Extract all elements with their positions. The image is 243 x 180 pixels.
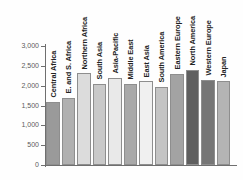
bar-slot: Asia-Pacific [108, 46, 122, 165]
bar[interactable] [155, 87, 169, 165]
bar-category-label: North America [189, 16, 196, 65]
bar-category-label: Northern Africa [81, 17, 88, 69]
bar[interactable] [46, 102, 60, 165]
y-axis-tick-label: 0 [0, 161, 39, 168]
bar[interactable] [77, 73, 91, 165]
bar-category-label: E. and S. Africa [65, 41, 72, 93]
bar-slot: Japan [217, 46, 231, 165]
bar[interactable] [186, 70, 200, 165]
bar-chart: 05001,0001,5002,0002,5003,000 Central Af… [0, 0, 243, 180]
bar-slot: Middle East [124, 46, 138, 165]
y-axis-tick-label: 500 [0, 141, 39, 148]
y-axis-tick-label: 1,000 [0, 121, 39, 128]
bar[interactable] [217, 81, 231, 165]
bar-slot: East Asia [139, 46, 153, 165]
bar-category-label: Eastern Europe [174, 17, 181, 70]
bar-slot: Central Africa [46, 46, 60, 165]
bar[interactable] [93, 84, 107, 165]
bar-slot: South America [155, 46, 169, 165]
bar[interactable] [170, 74, 184, 165]
y-axis-tick [41, 165, 46, 166]
bar-slot: Western Europe [201, 46, 215, 165]
bar-group: Central AfricaE. and S. AfricaNorthern A… [46, 46, 236, 165]
y-axis-tick-label: 1,500 [0, 102, 39, 109]
bar-category-label: Middle East [127, 40, 134, 80]
bar-category-label: Japan [220, 56, 227, 77]
bar[interactable] [124, 84, 138, 165]
bar-slot: E. and S. Africa [62, 46, 76, 165]
bar[interactable] [201, 80, 215, 165]
bar-category-label: Western Europe [205, 21, 212, 76]
y-axis-tick-label: 2,000 [0, 82, 39, 89]
bar-category-label: Central Africa [50, 51, 57, 98]
y-axis-tick-label: 2,500 [0, 62, 39, 69]
bar[interactable] [139, 81, 153, 165]
y-axis-tick-label: 3,000 [0, 42, 39, 49]
bar-slot: Northern Africa [77, 46, 91, 165]
bar-category-label: South America [158, 32, 165, 83]
x-axis-line [45, 165, 237, 166]
bar[interactable] [108, 78, 122, 165]
bar-slot: Eastern Europe [170, 46, 184, 165]
bar[interactable] [62, 98, 76, 165]
bar-slot: South Asia [93, 46, 107, 165]
bar-slot: North America [186, 46, 200, 165]
bar-category-label: Asia-Pacific [112, 33, 119, 74]
bar-category-label: South Asia [96, 42, 103, 79]
bar-category-label: East Asia [143, 45, 150, 77]
